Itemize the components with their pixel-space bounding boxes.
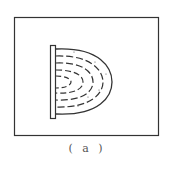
dashed-curve-1 bbox=[56, 56, 103, 107]
dashed-curve-2 bbox=[56, 63, 93, 100]
outer-curve bbox=[56, 49, 112, 114]
dashed-curve-3 bbox=[56, 70, 83, 93]
figure-caption: ( a ) bbox=[0, 142, 174, 155]
dashed-curve-4 bbox=[56, 76, 71, 88]
vertical-plate bbox=[51, 46, 56, 119]
outer-frame bbox=[15, 18, 159, 136]
